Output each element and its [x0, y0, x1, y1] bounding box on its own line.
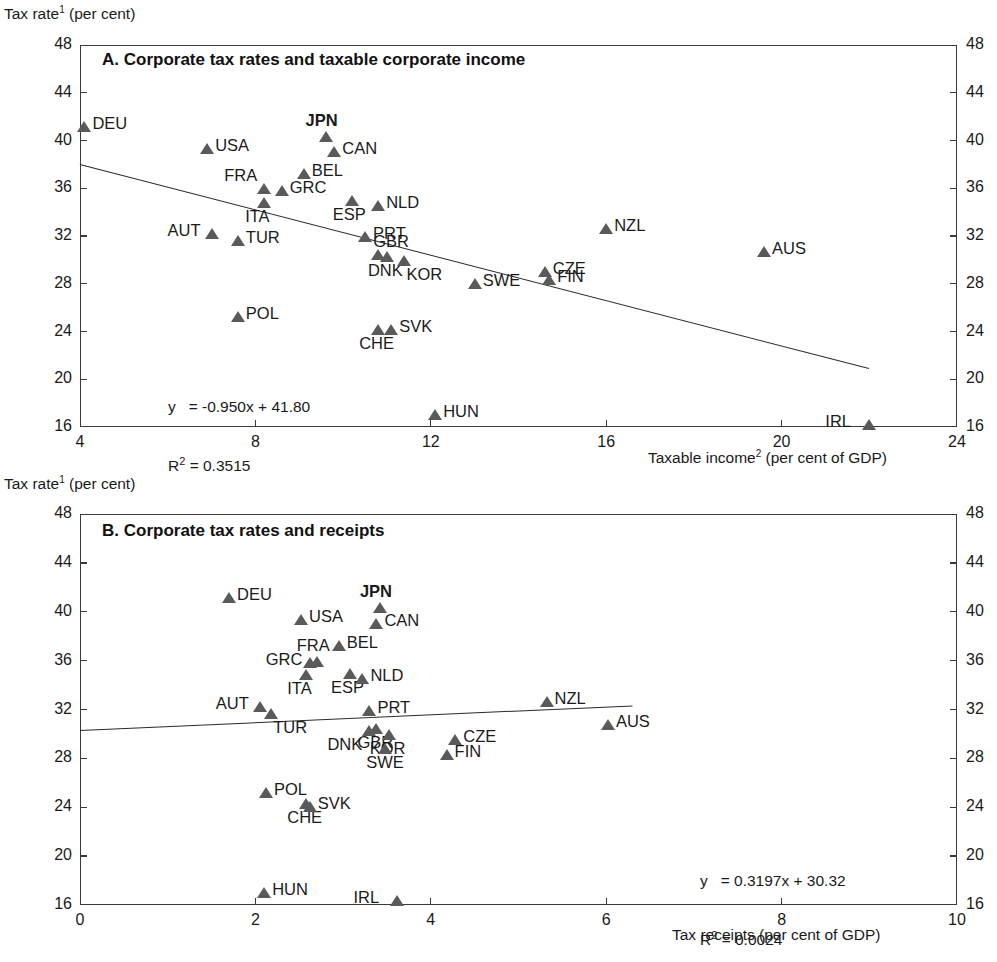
panel-b-equation-slope: y = 0.3197x + 30.32 — [700, 871, 846, 890]
panel-b-ytick-label-24: 24 — [38, 797, 72, 815]
panel-b-xtick-label-8: 8 — [762, 911, 802, 929]
panel-b-ytick-label-28: 28 — [38, 748, 72, 766]
panel-a-ytick-label-48: 48 — [38, 35, 72, 53]
panel-a-ytick-left — [80, 235, 87, 236]
data-point-label-tur: TUR — [246, 229, 280, 246]
panel-b-ytick-label-right-36: 36 — [966, 651, 997, 669]
data-point-label-pol: POL — [246, 305, 279, 322]
data-point-marker-irl — [862, 419, 876, 430]
panel-b-ytick-right — [950, 562, 957, 563]
data-point-label-fin: FIN — [455, 743, 482, 760]
panel-b-ytick-right — [950, 807, 957, 808]
data-point-label-bel: BEL — [312, 162, 343, 179]
panel-b-ytick-label-right-28: 28 — [966, 748, 997, 766]
data-point-marker-jpn — [319, 131, 333, 142]
data-point-label-hun: HUN — [272, 881, 308, 898]
data-point-label-irl: IRL — [825, 413, 851, 430]
panel-b-xtick — [606, 898, 607, 905]
data-point-label-esp: ESP — [333, 206, 366, 223]
data-point-label-aus: AUS — [772, 240, 806, 257]
data-point-marker-svk — [384, 324, 398, 335]
data-point-label-pol: POL — [274, 781, 307, 798]
data-point-label-hun: HUN — [443, 403, 479, 420]
panel-a-ytick-label-32: 32 — [38, 226, 72, 244]
data-point-marker-fra — [257, 183, 271, 194]
data-point-label-ita: ITA — [287, 680, 311, 697]
data-point-marker-fin — [542, 274, 556, 285]
panel-a-ytick-label-28: 28 — [38, 274, 72, 292]
panel-b-xtick-label-2: 2 — [235, 911, 275, 929]
panel-b-ytick-label-44: 44 — [38, 553, 72, 571]
data-point-marker-prt — [358, 231, 372, 242]
panel-b-ytick-label-right-48: 48 — [966, 504, 997, 522]
panel-b-ytick-label-20: 20 — [38, 846, 72, 864]
panel-b-ytick-label-40: 40 — [38, 602, 72, 620]
data-point-marker-swe — [468, 278, 482, 289]
panel-a-y-axis-title: Tax rate1 (per cent) — [4, 4, 135, 23]
data-point-label-deu: DEU — [92, 115, 127, 132]
panel-b-xtick-label-10: 10 — [937, 911, 977, 929]
data-point-label-dnk: DNK — [327, 736, 362, 753]
data-point-label-nld: NLD — [370, 667, 403, 684]
data-point-marker-grc — [303, 657, 317, 668]
data-point-label-ita: ITA — [245, 208, 269, 225]
data-point-label-bel: BEL — [347, 634, 378, 651]
data-point-marker-nzl — [599, 223, 613, 234]
panel-a-ytick-label-right-48: 48 — [966, 35, 997, 53]
panel-b-ytick-label-36: 36 — [38, 651, 72, 669]
data-point-label-jpn: JPN — [306, 112, 338, 129]
panel-b-ytick-left — [80, 660, 87, 661]
data-point-label-che: CHE — [359, 335, 394, 352]
panel-a-ytick-right — [950, 92, 957, 93]
data-point-label-nzl: NZL — [555, 690, 586, 707]
panel-b-xtick — [255, 898, 256, 905]
panel-a-xtick-label-8: 8 — [235, 433, 275, 451]
data-point-label-deu: DEU — [237, 586, 272, 603]
data-point-marker-pol — [231, 311, 245, 322]
data-point-label-grc: GRC — [290, 179, 327, 196]
panel-a-xtick — [430, 420, 431, 427]
data-point-marker-bel — [332, 640, 346, 651]
data-point-label-usa: USA — [215, 137, 249, 154]
data-point-marker-nld — [355, 673, 369, 684]
panel-b-xtick — [430, 898, 431, 905]
panel-a-ytick-label-right-24: 24 — [966, 322, 997, 340]
panel-b-ytick-label-32: 32 — [38, 700, 72, 718]
data-point-label-swe: SWE — [366, 754, 404, 771]
data-point-marker-dnk — [362, 725, 376, 736]
panel-b-ytick-right — [950, 855, 957, 856]
panel-a-ytick-label-20: 20 — [38, 369, 72, 387]
data-point-marker-hun — [257, 887, 271, 898]
data-point-marker-swe — [378, 743, 392, 754]
data-point-label-fin: FIN — [557, 268, 584, 285]
panel-a-ytick-label-right-32: 32 — [966, 226, 997, 244]
data-point-marker-hun — [428, 409, 442, 420]
data-point-label-aus: AUS — [616, 713, 650, 730]
panel-b-xtick-label-4: 4 — [411, 911, 451, 929]
data-point-marker-usa — [200, 143, 214, 154]
panel-a-ytick-label-40: 40 — [38, 131, 72, 149]
panel-a-ytick-left — [80, 140, 87, 141]
panel-b-ytick-left — [80, 855, 87, 856]
data-point-marker-fin — [440, 749, 454, 760]
panel-a-equation-slope: y = -0.950x + 41.80 — [168, 397, 310, 416]
data-point-marker-ita — [257, 197, 271, 208]
data-point-label-can: CAN — [384, 612, 419, 629]
panel-a-ytick-label-right-20: 20 — [966, 369, 997, 387]
data-point-label-tur: TUR — [273, 719, 307, 736]
panel-b-ytick-label-right-20: 20 — [966, 846, 997, 864]
panel-a-ytick-right — [950, 331, 957, 332]
panel-a-ytick-left — [80, 188, 87, 189]
data-point-label-svk: SVK — [318, 795, 351, 812]
data-point-label-nzl: NZL — [614, 217, 645, 234]
panel-b-ytick-label-right-32: 32 — [966, 700, 997, 718]
panel-a-ytick-label-right-36: 36 — [966, 178, 997, 196]
panel-b-ytick-label-right-40: 40 — [966, 602, 997, 620]
panel-a-ytick-right — [950, 140, 957, 141]
data-point-marker-deu — [77, 121, 91, 132]
data-point-label-gbr: GBR — [373, 233, 409, 250]
panel-a-ytick-right — [950, 283, 957, 284]
panel-a-xtick-label-4: 4 — [60, 433, 100, 451]
data-point-label-swe: SWE — [483, 272, 521, 289]
panel-b-ytick-left — [80, 807, 87, 808]
